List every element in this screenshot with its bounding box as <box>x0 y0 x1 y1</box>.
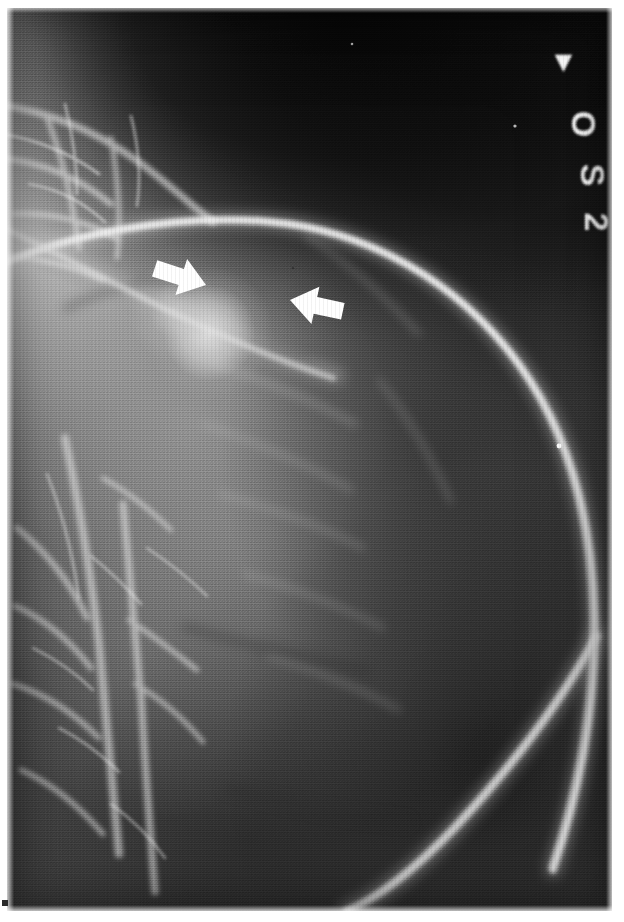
film-border-feather <box>7 8 612 911</box>
radiograph-plate: ▶ O S 2 <box>7 8 612 911</box>
corner-registration-dot <box>2 900 8 906</box>
radiograph-page: ▶ O S 2 <box>0 0 624 922</box>
